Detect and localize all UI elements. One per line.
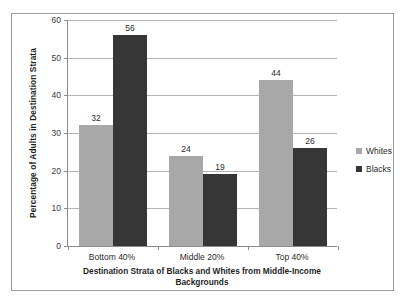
legend-label: Whites [366, 146, 392, 156]
chart-legend: WhitesBlacks [356, 146, 392, 182]
bar-chart: Percentage of Adults in Destination Stra… [12, 14, 393, 290]
bar-value-label: 32 [91, 113, 100, 123]
legend-entry-blacks[interactable]: Blacks [356, 164, 392, 174]
legend-swatch-icon [356, 166, 362, 172]
legend-label: Blacks [366, 164, 391, 174]
bars-layer: 325624194426 [68, 20, 337, 246]
category-separator-1 [158, 246, 159, 250]
bar-blacks-2[interactable]: 19 [203, 174, 237, 246]
y-tick-label-60: 60 [52, 15, 61, 25]
y-tick-label-30: 30 [52, 128, 61, 138]
bar-whites-1[interactable]: 32 [79, 125, 113, 246]
y-axis-title: Percentage of Adults in Destination Stra… [26, 20, 40, 246]
bar-value-label: 26 [305, 136, 314, 146]
x-axis-label-1: Bottom 40% [67, 252, 157, 262]
bar-value-label: 44 [271, 68, 280, 78]
bar-value-label: 24 [181, 144, 190, 154]
x-axis-label-3: Top 40% [247, 252, 337, 262]
y-tick-label-40: 40 [52, 90, 61, 100]
y-tick-label-20: 20 [52, 166, 61, 176]
gridline-0 [68, 246, 337, 247]
category-separator-3 [338, 246, 339, 250]
bar-blacks-3[interactable]: 26 [293, 148, 327, 246]
bar-value-label: 56 [125, 23, 134, 33]
x-axis-title-line-1: Destination Strata of Blacks and Whites … [42, 266, 362, 277]
category-separator-0 [68, 246, 69, 250]
bar-group-3: 4426 [248, 20, 338, 246]
y-tick-label-0: 0 [56, 241, 61, 251]
category-separator-2 [248, 246, 249, 250]
y-tick-label-50: 50 [52, 53, 61, 63]
y-axis-title-text: Percentage of Adults in Destination Stra… [28, 48, 38, 218]
x-axis-title: Destination Strata of Blacks and Whites … [42, 266, 362, 288]
figure-frame: Percentage of Adults in Destination Stra… [11, 13, 394, 291]
y-tick-label-10: 10 [52, 203, 61, 213]
x-axis-title-line-2: Backgrounds [42, 277, 362, 288]
bar-group-2: 2419 [158, 20, 248, 246]
bar-value-label: 19 [215, 162, 224, 172]
x-axis-label-2: Middle 20% [157, 252, 247, 262]
legend-entry-whites[interactable]: Whites [356, 146, 392, 156]
plot-area: 0102030405060 325624194426 [67, 20, 337, 246]
bar-blacks-1[interactable]: 56 [113, 35, 147, 246]
bar-whites-3[interactable]: 44 [259, 80, 293, 246]
bar-group-1: 3256 [68, 20, 158, 246]
bar-whites-2[interactable]: 24 [169, 156, 203, 246]
legend-swatch-icon [356, 148, 362, 154]
